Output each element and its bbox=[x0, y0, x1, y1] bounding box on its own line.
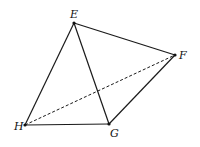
label-E: E bbox=[69, 8, 78, 21]
edge-HG bbox=[25, 124, 109, 125]
label-F: F bbox=[178, 49, 187, 62]
edge-FG bbox=[109, 55, 175, 124]
point-G bbox=[107, 122, 110, 125]
label-H: H bbox=[13, 120, 24, 133]
edge-EH bbox=[25, 23, 74, 125]
edge-EG bbox=[74, 23, 109, 124]
point-H bbox=[23, 123, 26, 126]
edge-HF-dashed bbox=[25, 55, 175, 125]
tetrahedron-diagram: E F G H bbox=[0, 0, 200, 147]
point-F bbox=[173, 53, 176, 56]
point-E bbox=[72, 21, 75, 24]
label-G: G bbox=[110, 127, 119, 140]
edge-EF bbox=[74, 23, 175, 55]
